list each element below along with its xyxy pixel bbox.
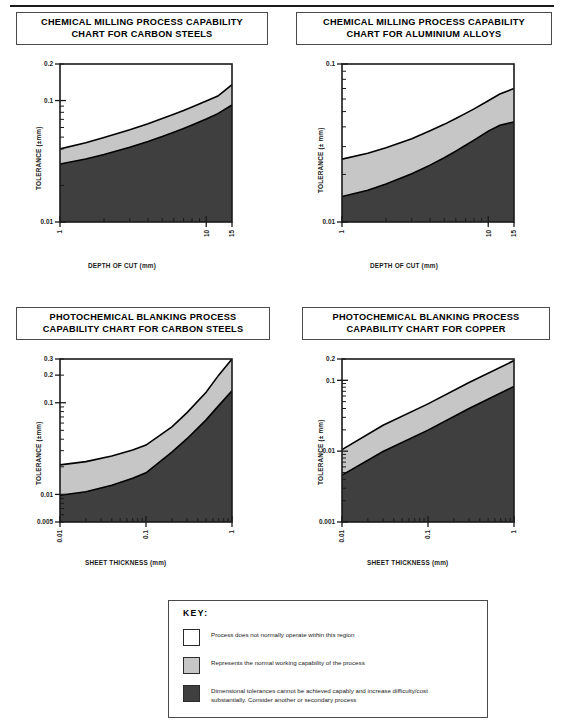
key-legend-box: KEY: Process does not normally operate w…: [168, 600, 488, 718]
x-tick-label: 10: [203, 230, 210, 238]
chart-cell-chemical-milling-carbon-steels: CHEMICAL MILLING PROCESS CAPABILITYCHART…: [0, 0, 282, 285]
x-axis-label-3: SHEET THICKNESS (mm): [85, 559, 166, 566]
x-axis-label-1: DEPTH OF CUT (mm): [88, 262, 156, 269]
y-axis-label-3: TOLERANCE (±mm): [35, 421, 42, 485]
y-tick-label: 0.01: [41, 491, 54, 498]
y-axis-label-1: TOLERANCE (±mm): [35, 126, 42, 190]
y-tick-label: 0.2: [326, 355, 335, 362]
chart-title-1: CHEMICAL MILLING PROCESS CAPABILITYCHART…: [37, 15, 247, 42]
chart-title-box-2: CHEMICAL MILLING PROCESS CAPABILITYCHART…: [296, 12, 552, 45]
chart-title-4: PHOTOCHEMICAL BLANKING PROCESSCAPABILITY…: [329, 310, 524, 337]
key-text-dark: Dimensional tolerances cannot be achieve…: [211, 685, 441, 704]
chart-svg-4: 0.20.10.010.0010.010.11: [282, 341, 564, 546]
y-tick-label: 0.001: [319, 518, 335, 525]
chart-title-2: CHEMICAL MILLING PROCESS CAPABILITYCHART…: [319, 15, 529, 42]
x-tick-label: 0.1: [142, 530, 149, 539]
y-tick-label: 0.2: [44, 60, 53, 67]
x-axis-label-4: SHEET THICKNESS (mm): [367, 559, 448, 566]
chart-cell-photochemical-blanking-copper: PHOTOCHEMICAL BLANKING PROCESSCAPABILITY…: [282, 295, 564, 585]
capability-charts-page: CHEMICAL MILLING PROCESS CAPABILITYCHART…: [0, 0, 564, 728]
y-tick-label: 0.1: [44, 97, 53, 104]
key-text-grey: Represents the normal working capability…: [211, 657, 365, 667]
y-tick-label: 0.1: [326, 377, 335, 384]
y-tick-label: 0.2: [44, 371, 53, 378]
chart-svg-1: 0.20.10.0111015: [0, 46, 282, 246]
y-tick-label: 0.01: [41, 218, 54, 225]
y-tick-label: 0.005: [37, 518, 53, 525]
chart-title-box-3: PHOTOCHEMICAL BLANKING PROCESSCAPABILITY…: [16, 307, 270, 340]
chart-svg-2: 0.10.0111015: [282, 46, 564, 246]
x-tick-label: 10: [485, 230, 492, 238]
key-swatch-white-icon: [183, 629, 200, 646]
chart-title-box-4: PHOTOCHEMICAL BLANKING PROCESSCAPABILITY…: [302, 307, 550, 340]
x-tick-label: 15: [510, 230, 517, 238]
x-tick-label: 0.1: [424, 530, 431, 539]
x-tick-label: 1: [510, 530, 517, 534]
key-text-white: Process does not normally operate within…: [211, 629, 354, 639]
chart-cell-photochemical-blanking-carbon-steels: PHOTOCHEMICAL BLANKING PROCESSCAPABILITY…: [0, 295, 282, 585]
chart-title-3: PHOTOCHEMICAL BLANKING PROCESSCAPABILITY…: [39, 310, 248, 337]
x-tick-label: 1: [56, 230, 63, 234]
chart-svg-3: 0.30.20.10.010.0050.010.11: [0, 341, 282, 546]
y-axis-label-4: TOLERANCE (± mm): [317, 419, 324, 485]
x-tick-label: 0.01: [338, 530, 345, 543]
y-tick-label: 0.1: [44, 399, 53, 406]
key-row-grey: Represents the normal working capability…: [183, 657, 365, 674]
plot-area-1: 0.20.10.0111015: [0, 46, 282, 246]
plot-area-4: 0.20.10.010.0010.010.11: [282, 341, 564, 546]
x-tick-label: 0.01: [56, 530, 63, 543]
key-title: KEY:: [183, 608, 209, 618]
y-tick-label: 0.3: [44, 355, 53, 362]
plot-area-3: 0.30.20.10.010.0050.010.11: [0, 341, 282, 546]
key-row-white: Process does not normally operate within…: [183, 629, 354, 646]
x-tick-label: 1: [228, 530, 235, 534]
key-swatch-dark-icon: [183, 685, 200, 702]
x-axis-label-2: DEPTH OF CUT (mm): [370, 262, 438, 269]
y-tick-label: 0.01: [323, 218, 336, 225]
y-tick-label: 0.1: [326, 60, 335, 67]
y-tick-label: 0.01: [323, 447, 336, 454]
key-swatch-grey-icon: [183, 657, 200, 674]
key-row-dark: Dimensional tolerances cannot be achieve…: [183, 685, 441, 704]
plot-area-2: 0.10.0111015: [282, 46, 564, 246]
x-tick-label: 1: [338, 230, 345, 234]
y-axis-label-2: TOLERANCE (± mm): [317, 127, 324, 193]
chart-cell-chemical-milling-aluminium-alloys: CHEMICAL MILLING PROCESS CAPABILITYCHART…: [282, 0, 564, 285]
chart-title-box-1: CHEMICAL MILLING PROCESS CAPABILITYCHART…: [16, 12, 268, 45]
x-tick-label: 15: [228, 230, 235, 238]
